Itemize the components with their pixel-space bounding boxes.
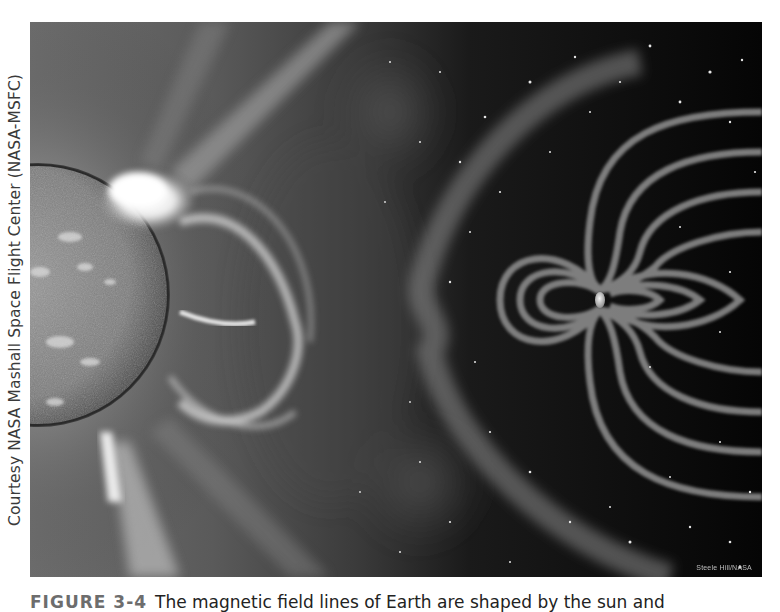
figure-label: FIGURE 3-4 [30, 592, 147, 612]
side-credit: Courtesy NASA Mashall Space Flight Cente… [3, 22, 27, 578]
scene-illustration [30, 22, 762, 577]
side-credit-text: Courtesy NASA Mashall Space Flight Cente… [6, 74, 24, 526]
caption-text: The magnetic field lines of Earth are sh… [155, 592, 665, 612]
figure-caption: FIGURE 3-4The magnetic field lines of Ea… [30, 592, 770, 612]
solar-flare [100, 170, 196, 230]
image-credit: Steele Hill/NASA [696, 564, 752, 571]
earth [595, 292, 605, 308]
cme-magnetosphere-image: Steele Hill/NASA [30, 22, 762, 577]
